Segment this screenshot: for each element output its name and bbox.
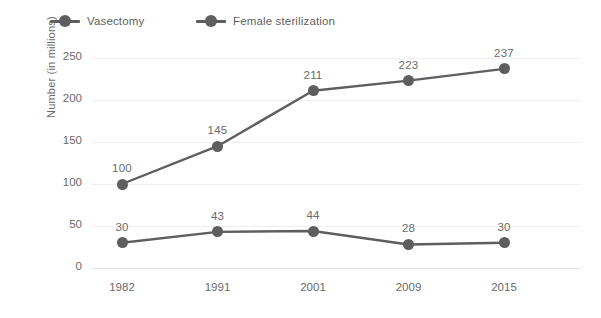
x-axis-tick-label: 1982 bbox=[109, 281, 135, 293]
data-point-label: 237 bbox=[494, 47, 514, 59]
data-point[interactable] bbox=[403, 239, 414, 250]
data-point-label: 145 bbox=[208, 124, 228, 136]
y-axis-tick-label: 150 bbox=[46, 134, 82, 146]
x-axis-tick-label: 2015 bbox=[491, 281, 517, 293]
data-point-label: 28 bbox=[402, 222, 415, 234]
y-axis-tick-label: 0 bbox=[46, 260, 82, 272]
data-point-label: 100 bbox=[112, 162, 132, 174]
data-point[interactable] bbox=[499, 237, 510, 248]
chart-legend: Vasectomy Female sterilization bbox=[0, 8, 601, 34]
data-point[interactable] bbox=[212, 141, 223, 152]
data-point-label: 44 bbox=[306, 209, 319, 221]
data-point[interactable] bbox=[117, 179, 128, 190]
legend-label-female-sterilization: Female sterilization bbox=[233, 15, 335, 27]
line-chart: Vasectomy Female sterilization Number (i… bbox=[0, 0, 601, 318]
data-point-label: 223 bbox=[399, 59, 419, 71]
y-axis-tick-label: 200 bbox=[46, 92, 82, 104]
series-lines bbox=[92, 58, 581, 268]
y-axis-tick-label: 100 bbox=[46, 176, 82, 188]
data-point-label: 43 bbox=[211, 210, 224, 222]
data-point[interactable] bbox=[117, 237, 128, 248]
data-point-label: 30 bbox=[115, 221, 128, 233]
legend-item-vasectomy[interactable]: Vasectomy bbox=[50, 8, 144, 34]
x-axis-tick-label: 2001 bbox=[300, 281, 326, 293]
gridline bbox=[92, 268, 581, 269]
data-point[interactable] bbox=[308, 85, 319, 96]
data-point[interactable] bbox=[499, 63, 510, 74]
data-point-label: 30 bbox=[497, 221, 510, 233]
data-point-label: 211 bbox=[304, 69, 323, 81]
legend-label-vasectomy: Vasectomy bbox=[87, 15, 144, 27]
y-axis-tick-label: 250 bbox=[46, 50, 82, 62]
y-axis-tick-label: 50 bbox=[46, 218, 82, 230]
circle-line-marker-icon bbox=[196, 14, 226, 28]
x-axis-tick-label: 2009 bbox=[396, 281, 422, 293]
legend-item-female-sterilization[interactable]: Female sterilization bbox=[196, 8, 335, 34]
data-point[interactable] bbox=[308, 226, 319, 237]
plot-area: Number (in millions) 050100150200250 198… bbox=[92, 58, 581, 268]
x-axis-tick-label: 1991 bbox=[205, 281, 231, 293]
